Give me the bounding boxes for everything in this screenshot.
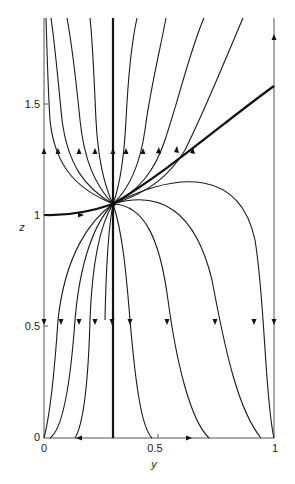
phase-portrait-figure: 1.5 1 0.5 0 0 0.5 1 y z xyxy=(0,0,295,484)
axes xyxy=(44,18,274,438)
x-axis-label: y xyxy=(150,458,158,470)
horizontal-arrows xyxy=(76,213,192,441)
ytick-label-1: 1 xyxy=(34,209,40,221)
heavy-separatrices xyxy=(44,18,274,438)
ytick-label-1.5: 1.5 xyxy=(25,98,40,110)
lower-trajectories xyxy=(44,182,274,438)
down-arrows xyxy=(42,319,277,325)
ytick-label-0.5: 0.5 xyxy=(25,320,40,332)
upper-trajectories xyxy=(46,18,243,204)
ytick-label-0: 0 xyxy=(34,431,40,443)
xtick-label-0: 0 xyxy=(41,442,47,454)
phase-portrait-svg: 1.5 1 0.5 0 0 0.5 1 y z xyxy=(0,0,295,484)
equilibrium-node xyxy=(111,202,116,207)
xtick-label-0.5: 0.5 xyxy=(147,442,162,454)
xtick-label-1: 1 xyxy=(272,442,278,454)
y-axis-label: z xyxy=(18,221,25,233)
